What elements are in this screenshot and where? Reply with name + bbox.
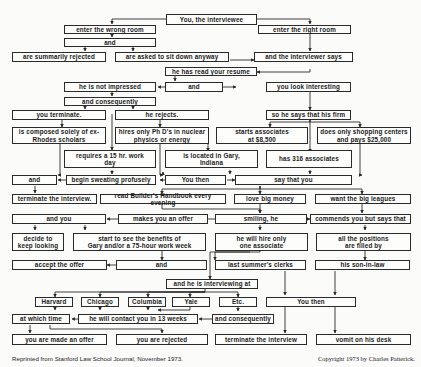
node-gary: is located in Gary, Indiana <box>165 150 258 168</box>
node-he-rejects: he rejects. <box>115 110 209 120</box>
node-at-which-time: at which time <box>12 314 70 324</box>
node-keep-looking: decide to keep looking <box>12 233 64 251</box>
node-look-interesting: you look interesting <box>266 82 351 92</box>
node-sweating: begin sweating profusely <box>66 175 156 185</box>
node-builders-handbook: read Builder's Handbook every evening <box>100 194 226 204</box>
node-and-consequently-2: and consequently <box>212 314 274 324</box>
copyright-notice: Copyright 1973 by Charles Patterick. <box>318 355 415 362</box>
node-columbia: Columbia <box>128 297 166 307</box>
node-accept-offer: accept the offer <box>12 260 107 270</box>
node-root: You, the interviewee <box>166 14 257 25</box>
node-hire-one: he will hire only one associate <box>215 233 308 251</box>
node-interviewer-says: and the interviewer says <box>254 52 353 62</box>
node-and-2: and <box>165 82 223 92</box>
node-and-4: and <box>116 260 207 270</box>
node-son-in-law: his son-in-law <box>315 260 410 270</box>
node-vomit: vomit on his desk <box>316 334 411 345</box>
node-makes-offer: makes you an offer <box>118 214 208 224</box>
node-interviewing-at: and he is interviewing at <box>166 279 258 289</box>
node-not-impressed: he is not impressed <box>64 82 156 92</box>
node-yale: Yale <box>172 297 210 307</box>
node-starts-associates: starts associates at $8,500 <box>216 127 308 144</box>
node-summer-clerks: last summer's clerks <box>215 260 306 270</box>
node-and-consequently-1: and consequently <box>64 97 156 106</box>
node-made-offer: you are made an offer <box>12 334 107 345</box>
node-and-1: and <box>64 38 156 47</box>
node-big-leagues: want the big leagues <box>315 194 411 204</box>
source-credit: Reprinted from Stanford Law School Journ… <box>12 355 183 362</box>
node-read-resume: he has read your resume <box>165 67 257 76</box>
node-and-you: and you <box>12 214 106 224</box>
node-you-then-1: You then <box>165 175 226 185</box>
node-terminate-interview-1: terminate the interview. <box>12 194 97 204</box>
node-you-then-2: You then <box>266 297 356 307</box>
node-contact-13-weeks: he will contact you in 13 weeks <box>78 314 198 324</box>
node-his-firm: so he says that his firm <box>266 110 351 120</box>
node-positions-filled: all the positions are filled by <box>316 233 411 251</box>
node-rhodes: is composed solely of ex- Rhodes scholar… <box>12 127 106 144</box>
node-say-that-you: say that you <box>235 175 352 185</box>
node-big-money: love big money <box>234 194 306 204</box>
node-summarily-rejected: are summarily rejected <box>12 52 106 62</box>
node-etc: Etc. <box>219 297 257 307</box>
node-chicago: Chicago <box>81 297 119 307</box>
node-shopping-centers: does only shopping centers and pays $25,… <box>317 127 411 144</box>
node-harvard: Harvard <box>35 297 73 307</box>
node-benefits-gary: start to see the benefits of Gary and/or… <box>73 233 206 251</box>
node-sit-down-anyway: are asked to sit down anyway <box>115 52 229 62</box>
node-smiling: smiling, he <box>215 214 307 224</box>
node-commends: commends you but says that <box>310 214 411 224</box>
node-phds: hires only Ph D's in nuclear physics or … <box>115 127 209 144</box>
node-work-day: requires a 15 hr. work day <box>64 150 156 168</box>
node-you-terminate: you terminate. <box>12 110 106 120</box>
node-316-associates: has 316 associates <box>266 150 352 168</box>
node-and-3: and <box>12 175 57 185</box>
node-terminate-interview-2: terminate the interview <box>215 334 307 345</box>
node-right-room: enter the right room <box>258 25 351 34</box>
node-you-rejected: you are rejected <box>116 334 208 345</box>
node-wrong-room: enter the wrong room <box>64 25 156 34</box>
